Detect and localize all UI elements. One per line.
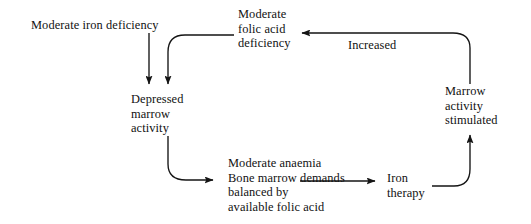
node-line: folic acid (238, 22, 291, 37)
node-moderate-anaemia-block: Moderate anaemia Bone marrow demands bal… (228, 156, 345, 214)
node-line: therapy (387, 186, 425, 201)
node-line: Depressed (131, 92, 184, 107)
node-line: balanced by (228, 185, 345, 200)
node-line: stimulated (445, 113, 498, 128)
edge-folic-acid-to-depressed (168, 35, 234, 84)
edge-label-increased: Increased (348, 38, 396, 53)
node-line: available folic acid (228, 200, 345, 215)
node-depressed-marrow-activity: Depressed marrow activity (131, 92, 184, 136)
node-line: Iron (387, 171, 425, 186)
node-line: deficiency (238, 36, 291, 51)
node-line: Moderate iron deficiency (31, 18, 159, 33)
node-line: Moderate (238, 7, 291, 22)
node-marrow-activity-stimulated: Marrow activity stimulated (445, 84, 498, 128)
edge-label-text: Increased (348, 38, 396, 53)
edge-depressed-to-anaemia (168, 136, 213, 180)
node-line: activity (131, 121, 184, 136)
edge-iron-therapy-to-marrow-stimulated (432, 135, 470, 186)
flow-diagram: Moderate iron deficiency Moderate folic … (0, 0, 531, 224)
node-moderate-folic-acid-deficiency: Moderate folic acid deficiency (238, 7, 291, 51)
node-line: Bone marrow demands (228, 171, 345, 186)
node-line: Moderate anaemia (228, 156, 345, 171)
node-line: activity (445, 99, 498, 114)
node-iron-therapy: Iron therapy (387, 171, 425, 200)
node-moderate-iron-deficiency: Moderate iron deficiency (31, 18, 159, 33)
node-line: marrow (131, 107, 184, 122)
node-line: Marrow (445, 84, 498, 99)
